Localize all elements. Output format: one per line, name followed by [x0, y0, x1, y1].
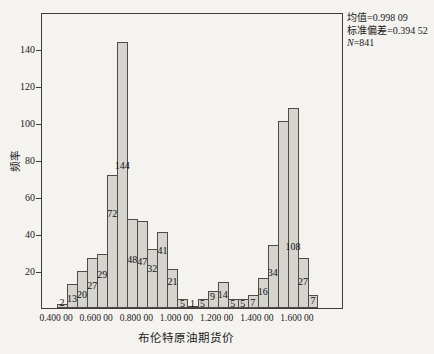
stat-mean: 均值=0.998 09: [347, 12, 428, 25]
stat-stddev: 标准偏差=0.394 52: [347, 25, 428, 38]
bar-count-label: 108: [278, 241, 308, 252]
bar-count-label: 21: [157, 276, 187, 287]
stats-box: 均值=0.998 09 标准偏差=0.394 52 N=841: [347, 12, 428, 50]
stat-n-value: =841: [354, 37, 375, 48]
stat-n: N=841: [347, 37, 428, 50]
y-tick-label: 120: [1, 81, 35, 93]
y-tick-label: 80: [1, 155, 35, 167]
bar-count-label: 7: [298, 295, 328, 306]
x-axis-title: 布伦特原油期货价: [96, 329, 276, 345]
y-tick-label: 140: [1, 44, 35, 56]
y-tick-label: 60: [1, 192, 35, 204]
y-tick-mark: [36, 198, 41, 199]
histogram-figure: 频率 2132027297214448473241215159145571634…: [0, 0, 434, 354]
bar-count-label: 144: [107, 160, 137, 171]
plot-area: 2132027297214448473241215159145571634108…: [41, 13, 343, 309]
stat-n-symbol: N: [347, 37, 354, 48]
y-tick-mark: [36, 50, 41, 51]
y-tick-mark: [36, 124, 41, 125]
y-tick-mark: [36, 161, 41, 162]
y-tick-mark: [36, 87, 41, 88]
y-tick-label: 20: [1, 266, 35, 278]
y-tick-label: 100: [1, 118, 35, 130]
y-tick-mark: [36, 235, 41, 236]
bar-count-label: 41: [147, 245, 177, 256]
y-tick-label: 40: [1, 229, 35, 241]
x-tick-label: 1.600 00: [269, 313, 325, 324]
y-tick-mark: [36, 272, 41, 273]
bar-count-label: 27: [288, 276, 318, 287]
